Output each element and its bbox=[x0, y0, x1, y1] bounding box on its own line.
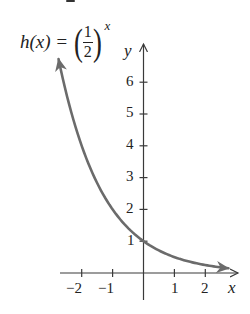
x-tick-label-neg2: −2 bbox=[66, 281, 82, 296]
y-tick-label-4: 4 bbox=[126, 137, 134, 152]
y-tick-label-5: 5 bbox=[126, 105, 134, 120]
y-tick-label-2: 2 bbox=[126, 201, 134, 216]
formula-fraction: 1 2 bbox=[83, 24, 93, 61]
formula-exponent: x bbox=[104, 18, 110, 34]
x-tick-label-1: 1 bbox=[171, 281, 179, 296]
y-tick-label-1: 1 bbox=[127, 233, 135, 248]
formula-denominator: 2 bbox=[84, 44, 92, 61]
y-tick-label-3: 3 bbox=[126, 169, 134, 184]
x-tick-label-2: 2 bbox=[201, 281, 209, 296]
formula-paren-close: ) bbox=[93, 23, 102, 61]
formula-lhs: h(x) = bbox=[20, 31, 68, 53]
x-axis-label: x bbox=[228, 279, 236, 296]
y-axis-label: y bbox=[124, 42, 132, 59]
x-tick-label-neg1: −1 bbox=[98, 281, 114, 296]
formula-numerator: 1 bbox=[84, 24, 92, 41]
formula-paren-open: ( bbox=[74, 23, 83, 61]
graph-figure: h(x) = ( 1 2 ) x y x 6 5 4 3 2 1 −2 −1 1… bbox=[0, 0, 250, 314]
function-label: h(x) = ( 1 2 ) x bbox=[20, 22, 110, 62]
y-tick-label-6: 6 bbox=[126, 74, 134, 89]
